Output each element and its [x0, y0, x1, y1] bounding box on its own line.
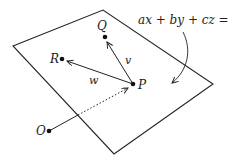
label-v: v [125, 54, 132, 67]
plane-diagram: P Q R O v w ax + by + cz = d [0, 0, 230, 163]
label-o: O [36, 124, 46, 138]
label-p: P [137, 78, 147, 92]
position-vector-dotted [78, 88, 128, 115]
label-w: w [89, 74, 99, 87]
plane-equation: ax + by + cz = d [138, 13, 230, 27]
position-vector-solid [49, 115, 78, 131]
vector-w [67, 61, 133, 84]
label-q: Q [97, 19, 107, 33]
point-o [47, 129, 52, 134]
point-q [103, 35, 108, 40]
point-p [131, 82, 136, 87]
label-r: R [49, 52, 59, 66]
point-r [60, 57, 65, 62]
